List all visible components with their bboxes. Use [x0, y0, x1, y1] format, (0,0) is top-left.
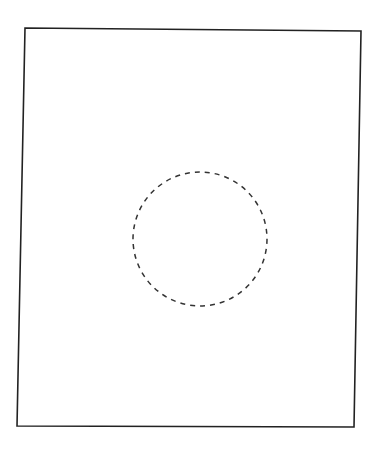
rectangular-frame: [17, 28, 361, 427]
diagram-canvas: [0, 0, 379, 451]
dashed-circle: [133, 172, 267, 306]
diagram-svg: [0, 0, 379, 451]
